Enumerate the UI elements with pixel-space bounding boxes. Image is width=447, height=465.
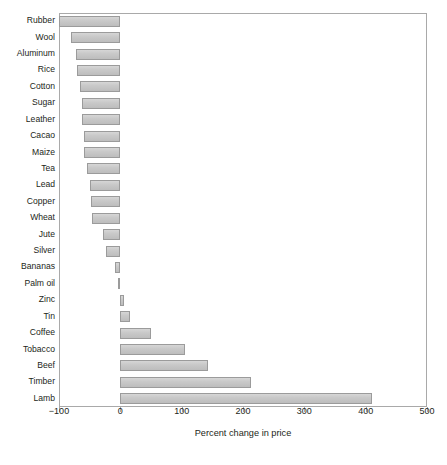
category-label: Beef [0,361,55,370]
category-label: Lamb [0,394,55,403]
category-label: Aluminum [0,49,55,58]
category-label: Wheat [0,213,55,222]
x-axis-tick-label: 300 [284,406,324,416]
bar [120,360,208,371]
category-label: Rubber [0,16,55,25]
category-label: Sugar [0,98,55,107]
bar [90,180,120,191]
category-label: Zinc [0,295,55,304]
category-label: Copper [0,197,55,206]
bar [84,131,121,142]
category-label: Cotton [0,82,55,91]
bar [120,311,130,322]
category-label: Rice [0,65,55,74]
category-label: Maize [0,148,55,157]
x-axis-tick-label: −100 [39,406,79,416]
x-axis-tick-label: 400 [346,406,386,416]
category-label: Silver [0,246,55,255]
bar [71,32,120,43]
bar-chart-figure: RubberWoolAluminumRiceCottonSugarLeather… [0,0,447,465]
bar [120,295,124,306]
bar [115,262,121,273]
bar [103,229,121,240]
bar [84,147,120,158]
bar [82,98,121,109]
x-axis-tick-label: 500 [407,406,447,416]
bar [87,163,121,174]
category-label: Timber [0,377,55,386]
category-label: Jute [0,230,55,239]
x-axis-tick-label: 100 [162,406,202,416]
bar [120,393,371,404]
bar [106,246,120,257]
category-label: Cacao [0,131,55,140]
bar [80,81,120,92]
category-label: Tin [0,312,55,321]
bars-layer [59,13,427,407]
category-label: Wool [0,33,55,42]
bar [82,114,120,125]
bar [91,196,120,207]
bar [120,328,151,339]
bar [92,213,121,224]
x-axis-title: Percent change in price [59,428,427,438]
bar [59,16,120,27]
category-label: Tobacco [0,345,55,354]
x-axis-tick-label: 200 [223,406,263,416]
category-label: Coffee [0,328,55,337]
category-label: Leather [0,115,55,124]
bar [118,278,120,289]
category-label: Lead [0,180,55,189]
x-axis-tick-label: 0 [100,406,140,416]
bar [120,344,184,355]
category-label: Palm oil [0,279,55,288]
bar [77,65,120,76]
bar [120,377,251,388]
category-axis-labels: RubberWoolAluminumRiceCottonSugarLeather… [0,13,55,407]
bar [76,49,121,60]
category-label: Tea [0,164,55,173]
category-label: Bananas [0,262,55,271]
